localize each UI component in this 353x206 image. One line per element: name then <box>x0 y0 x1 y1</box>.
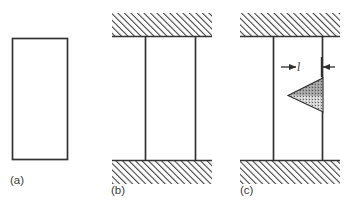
bottom-grip-hatch-fill <box>240 160 340 184</box>
bottom-grip-hatch-fill <box>112 160 212 184</box>
fracture-specimen-figure: l (a) (b) (c) <box>0 0 353 206</box>
panel-a-specimen-outline <box>13 39 68 160</box>
top-grip-hatch-fill <box>240 13 340 37</box>
panel-label-a: (a) <box>10 175 24 187</box>
panel-b-bottom-grip <box>112 160 212 184</box>
panel-label-c: (c) <box>240 185 253 197</box>
panel-c-top-grip <box>240 13 340 37</box>
panel-a <box>13 39 68 160</box>
panel-c-bottom-grip <box>240 160 340 184</box>
panel-b-top-grip <box>112 13 212 37</box>
top-grip-hatch-fill <box>112 13 212 37</box>
crack-length-label: l <box>297 62 300 74</box>
panel-label-b: (b) <box>111 185 125 197</box>
figure-canvas <box>0 0 353 206</box>
